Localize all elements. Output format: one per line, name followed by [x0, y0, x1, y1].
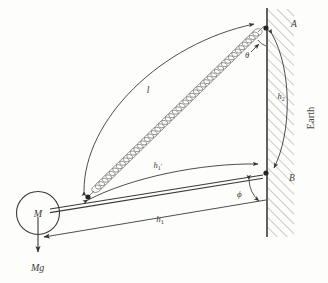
rod: [50, 175, 263, 213]
h1-prime-label: h1′: [154, 160, 163, 171]
point-a-group: A: [290, 19, 297, 29]
earth-label: Earth: [305, 106, 316, 129]
point-b-label: B: [289, 173, 295, 183]
point-b-group: B: [289, 173, 295, 183]
point-a-marker: [263, 25, 268, 30]
earth-wall: [267, 8, 294, 237]
weight-vector: Mg: [30, 217, 44, 273]
l-dimension: l: [84, 24, 254, 191]
phi-angle: ϕ: [237, 180, 259, 201]
wall-hatching: [268, 9, 294, 237]
phi-label: ϕ: [237, 189, 242, 199]
h1-dimension: h1: [44, 200, 266, 237]
point-a-label: A: [290, 19, 297, 29]
l-label: l: [147, 85, 150, 95]
spring: [90, 26, 264, 195]
weight-label: Mg: [30, 262, 44, 273]
theta-label: θ: [245, 50, 249, 60]
point-b-marker: [263, 170, 268, 175]
h1-label: h1: [156, 214, 164, 225]
physics-diagram: M Mg A B Earth h2 l h1′ h1: [0, 0, 328, 283]
